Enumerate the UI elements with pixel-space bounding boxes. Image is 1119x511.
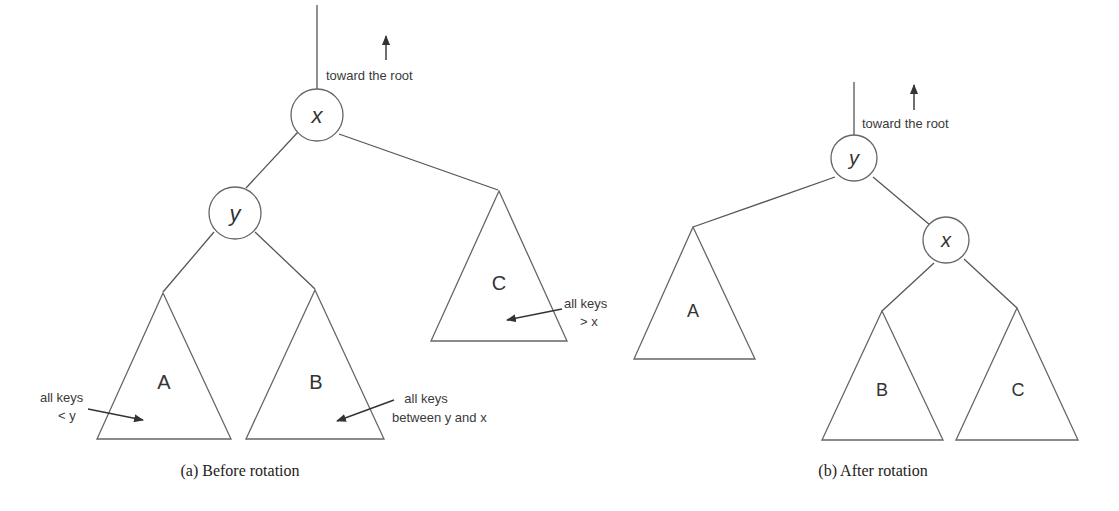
before-rotation-panel: toward the root x y A B C all keys < y a… [40, 5, 608, 480]
caption-after: (b) After rotation [818, 462, 927, 480]
subtree-c [956, 308, 1078, 440]
edge-y-b [255, 232, 315, 289]
subtree-a [97, 293, 231, 439]
subtree-b [246, 290, 384, 439]
note-b-line2: between y and x [392, 410, 487, 425]
after-rotation-panel: toward the root y x A B C (b) After rota… [634, 82, 1078, 480]
note-a-line2: < y [58, 408, 76, 423]
node-y-label: y [228, 201, 243, 226]
subtree-c [431, 191, 567, 341]
edge-y-a [693, 177, 835, 227]
subtree-a-label: A [687, 301, 699, 321]
edge-y-a [163, 232, 214, 292]
note-b-line1: all keys [404, 391, 448, 406]
subtree-b [822, 311, 943, 440]
caption-before: (a) Before rotation [180, 462, 299, 480]
subtree-c-label: C [492, 272, 506, 294]
edge-x-c [964, 259, 1017, 308]
node-x-label: x [311, 103, 324, 128]
subtree-a-label: A [157, 371, 171, 393]
subtree-b-label: B [876, 380, 888, 400]
rotation-diagram: toward the root x y A B C all keys < y a… [0, 0, 1119, 511]
subtree-c-label: C [1012, 380, 1025, 400]
edge-x-c [339, 134, 498, 190]
node-y-label: y [847, 147, 860, 169]
edge-x-y [246, 132, 298, 188]
edge-y-x [873, 177, 930, 225]
subtree-b-label: B [309, 371, 322, 393]
node-x-label: x [940, 229, 952, 251]
note-c-line1: all keys [564, 296, 608, 311]
note-a-line1: all keys [40, 390, 84, 405]
toward-root-label: toward the root [862, 116, 949, 131]
note-c-line2: > x [580, 314, 598, 329]
subtree-a [634, 227, 755, 359]
toward-root-label: toward the root [326, 68, 413, 83]
edge-x-b [882, 263, 934, 311]
